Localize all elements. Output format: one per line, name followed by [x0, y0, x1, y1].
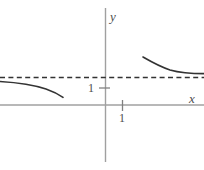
x-axis-label: x — [189, 92, 195, 105]
x-axis-tick-label-1: 1 — [119, 112, 125, 124]
plot-canvas — [0, 0, 204, 170]
y-axis-tick-label-1: 1 — [88, 82, 94, 94]
curve-left-branch — [0, 82, 63, 98]
curve-right-branch — [143, 57, 204, 74]
y-axis-label: y — [110, 10, 116, 23]
graph-figure: y x 1 1 — [0, 0, 204, 170]
